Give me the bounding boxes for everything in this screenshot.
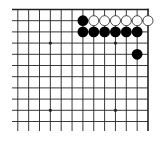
black-stone	[78, 27, 89, 38]
black-stone	[121, 27, 132, 38]
star-point	[49, 109, 52, 112]
black-stone	[88, 27, 99, 38]
black-stone	[78, 15, 89, 26]
white-stone	[143, 16, 153, 26]
star-point	[114, 109, 117, 112]
white-stone	[100, 16, 110, 26]
black-stone	[132, 49, 143, 60]
white-stone	[89, 16, 99, 26]
white-stone	[121, 16, 131, 26]
black-stone	[99, 27, 110, 38]
star-point	[49, 42, 52, 45]
star-point	[114, 42, 117, 45]
black-stone	[132, 27, 143, 38]
black-stone	[110, 27, 121, 38]
go-board	[0, 0, 160, 143]
white-stone	[110, 16, 120, 26]
white-stone	[132, 16, 142, 26]
